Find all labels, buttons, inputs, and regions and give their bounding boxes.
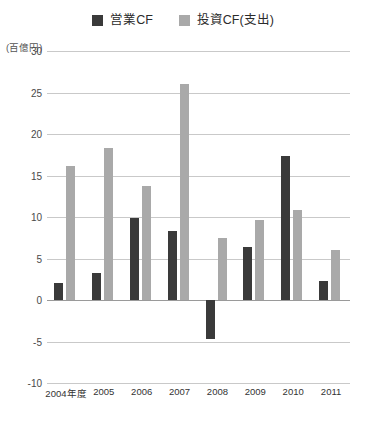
x-axis-tick-label: 2004年度: [45, 386, 86, 400]
square-swatch-icon: [92, 15, 103, 26]
bar-group: [199, 51, 237, 383]
y-axis-tick-label: -10: [28, 378, 42, 389]
square-swatch-icon: [179, 15, 190, 26]
gridline: [47, 383, 350, 384]
bar-group: [312, 51, 350, 383]
bar[interactable]: [180, 84, 189, 300]
legend-item-operating-cf: 営業CF: [92, 14, 153, 27]
bar[interactable]: [243, 247, 252, 300]
legend-item-investing-cf: 投資CF(支出): [179, 14, 274, 27]
y-axis-tick-label: -5: [33, 336, 42, 347]
bar[interactable]: [168, 231, 177, 300]
x-axis-tick-label: 2006: [131, 386, 152, 397]
y-axis-tick-label: 20: [31, 129, 42, 140]
bar[interactable]: [319, 281, 328, 300]
bar[interactable]: [54, 283, 63, 300]
legend-label-operating-cf: 営業CF: [110, 14, 153, 27]
x-axis-tick-label: 2005: [93, 386, 114, 397]
y-axis-tick-label: 30: [31, 46, 42, 57]
bar-groups: [47, 51, 350, 383]
x-axis-tick-label: 2007: [169, 386, 190, 397]
bar-group: [123, 51, 161, 383]
bar[interactable]: [66, 166, 75, 300]
bar[interactable]: [293, 210, 302, 300]
bar[interactable]: [130, 218, 139, 300]
bar[interactable]: [255, 220, 264, 300]
bar[interactable]: [142, 186, 151, 300]
x-axis-tick-label: 2011: [321, 386, 341, 397]
bar[interactable]: [218, 238, 227, 300]
bar-group: [161, 51, 199, 383]
bar-group: [236, 51, 274, 383]
bar[interactable]: [92, 273, 101, 300]
bar[interactable]: [331, 250, 340, 300]
y-axis-tick-label: 25: [31, 87, 42, 98]
x-axis-tick-label: 2010: [283, 386, 304, 397]
bar-group: [274, 51, 312, 383]
bar-group: [47, 51, 85, 383]
y-axis-tick-label: 5: [36, 253, 42, 264]
bar[interactable]: [206, 300, 215, 339]
bar[interactable]: [281, 156, 290, 300]
chart-legend: 営業CF 投資CF(支出): [0, 14, 366, 27]
x-axis-labels: 2004年度2005200620072008200920102011: [47, 386, 350, 406]
x-axis-tick-label: 2008: [207, 386, 228, 397]
chart-container: 営業CF 投資CF(支出) (百億円) 302520151050-5-10 20…: [0, 0, 366, 424]
plot-area: 302520151050-5-10: [47, 51, 350, 383]
y-axis-tick-label: 10: [31, 212, 42, 223]
bar[interactable]: [104, 148, 113, 300]
y-axis-tick-label: 15: [31, 170, 42, 181]
x-axis-tick-label: 2009: [245, 386, 266, 397]
y-axis-tick-label: 0: [36, 295, 42, 306]
bar-group: [85, 51, 123, 383]
legend-label-investing-cf: 投資CF(支出): [197, 14, 274, 27]
